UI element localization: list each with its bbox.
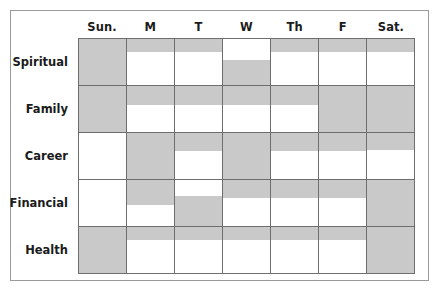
cell-health-f[interactable]: [319, 227, 367, 273]
cell-fill: [223, 60, 270, 85]
cell-fill: [319, 180, 366, 198]
cell-fill: [319, 133, 366, 151]
cell-health-sun[interactable]: [79, 227, 127, 273]
category-label-career: Career: [4, 132, 74, 179]
category-label-family: Family: [4, 85, 74, 132]
chart-row-family: [79, 86, 414, 133]
cell-spiritual-m[interactable]: [127, 39, 175, 85]
cell-spiritual-t[interactable]: [175, 39, 223, 85]
cell-fill: [175, 227, 222, 240]
cell-career-sun[interactable]: [79, 133, 127, 179]
cell-family-sat[interactable]: [367, 86, 414, 132]
cell-health-w[interactable]: [223, 227, 271, 273]
cell-fill: [223, 133, 270, 179]
cell-career-w[interactable]: [223, 133, 271, 179]
cell-spiritual-sat[interactable]: [367, 39, 414, 85]
cell-career-f[interactable]: [319, 133, 367, 179]
day-label-0: Sun.: [78, 18, 126, 36]
cell-spiritual-w[interactable]: [223, 39, 271, 85]
cell-fill: [367, 133, 414, 150]
cell-career-th[interactable]: [271, 133, 319, 179]
cell-health-sat[interactable]: [367, 227, 414, 273]
cell-health-t[interactable]: [175, 227, 223, 273]
cell-fill: [319, 39, 366, 52]
category-label-column: SpiritualFamilyCareerFinancialHealth: [4, 38, 74, 274]
cell-family-w[interactable]: [223, 86, 271, 132]
cell-fill: [367, 86, 414, 132]
cell-fill: [271, 227, 318, 240]
cell-fill: [319, 227, 366, 240]
cell-financial-m[interactable]: [127, 180, 175, 226]
cell-health-th[interactable]: [271, 227, 319, 273]
cell-family-th[interactable]: [271, 86, 319, 132]
cell-family-sun[interactable]: [79, 86, 127, 132]
day-label-5: F: [319, 18, 367, 36]
cell-financial-w[interactable]: [223, 180, 271, 226]
day-label-4: Th: [271, 18, 319, 36]
cell-fill: [79, 227, 126, 273]
day-label-1: M: [126, 18, 174, 36]
weekly-goals-chart: Sun.MTWThFSat. SpiritualFamilyCareerFina…: [0, 0, 441, 293]
chart-grid: [78, 38, 415, 274]
cell-health-m[interactable]: [127, 227, 175, 273]
cell-family-f[interactable]: [319, 86, 367, 132]
cell-financial-sun[interactable]: [79, 180, 127, 226]
day-label-3: W: [222, 18, 270, 36]
cell-family-m[interactable]: [127, 86, 175, 132]
cell-fill: [175, 196, 222, 226]
cell-spiritual-th[interactable]: [271, 39, 319, 85]
cell-fill: [367, 227, 414, 273]
cell-spiritual-f[interactable]: [319, 39, 367, 85]
chart-row-financial: [79, 180, 414, 227]
cell-fill: [79, 86, 126, 132]
cell-fill: [367, 39, 414, 52]
cell-spiritual-sun[interactable]: [79, 39, 127, 85]
cell-fill: [127, 133, 174, 179]
cell-financial-f[interactable]: [319, 180, 367, 226]
chart-row-spiritual: [79, 39, 414, 86]
cell-fill: [271, 180, 318, 198]
day-header-row: Sun.MTWThFSat.: [78, 18, 415, 36]
cell-fill: [367, 180, 414, 226]
chart-row-health: [79, 227, 414, 273]
cell-fill: [127, 227, 174, 240]
category-label-spiritual: Spiritual: [4, 38, 74, 85]
chart-row-career: [79, 133, 414, 180]
cell-career-sat[interactable]: [367, 133, 414, 179]
cell-fill: [175, 39, 222, 52]
cell-family-t[interactable]: [175, 86, 223, 132]
category-label-financial: Financial: [4, 180, 74, 227]
cell-fill: [319, 86, 366, 132]
category-label-health: Health: [4, 227, 74, 274]
cell-fill: [175, 86, 222, 105]
cell-fill: [271, 39, 318, 52]
cell-fill: [127, 39, 174, 52]
cell-career-t[interactable]: [175, 133, 223, 179]
cell-fill: [271, 86, 318, 105]
cell-fill: [223, 86, 270, 105]
cell-financial-th[interactable]: [271, 180, 319, 226]
day-label-6: Sat.: [367, 18, 415, 36]
cell-fill: [175, 133, 222, 151]
cell-career-m[interactable]: [127, 133, 175, 179]
cell-fill: [223, 227, 270, 240]
cell-financial-t[interactable]: [175, 180, 223, 226]
day-label-2: T: [174, 18, 222, 36]
cell-fill: [223, 180, 270, 198]
cell-fill: [127, 86, 174, 105]
cell-fill: [127, 180, 174, 205]
cell-fill: [271, 133, 318, 151]
cell-financial-sat[interactable]: [367, 180, 414, 226]
cell-fill: [79, 39, 126, 85]
